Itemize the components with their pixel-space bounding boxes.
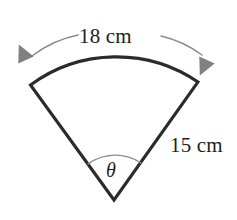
arc-length-label: 18 cm — [79, 26, 132, 47]
arrow-left-icon — [11, 41, 34, 64]
radius-label: 15 cm — [170, 135, 223, 156]
figure-container: 18 cm 15 cm θ — [0, 0, 237, 220]
central-angle-label: θ — [106, 160, 116, 180]
arc-length-dimension-left — [32, 35, 78, 56]
arc-length-dimension-right — [161, 36, 202, 55]
arrow-right-icon — [192, 56, 215, 79]
